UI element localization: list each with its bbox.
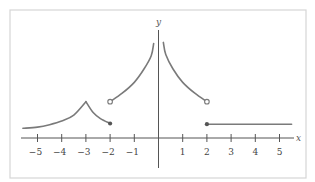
x-tick-label: −2 bbox=[101, 147, 114, 157]
open-circle-marker bbox=[108, 99, 113, 104]
x-tick-label: 2 bbox=[204, 147, 210, 157]
curve-piece-3 bbox=[163, 42, 207, 101]
x-tick-label: −4 bbox=[53, 147, 67, 157]
x-axis-label: x bbox=[296, 133, 301, 143]
function-graph: −5−4−3−2−112345 x y bbox=[0, 0, 315, 182]
x-tick-label: −3 bbox=[77, 147, 91, 157]
x-tick-label: 4 bbox=[252, 147, 258, 157]
x-ticks: −5−4−3−2−112345 bbox=[29, 134, 283, 157]
curve-left-rising bbox=[23, 102, 86, 129]
x-tick-label: −1 bbox=[126, 147, 139, 157]
x-tick-label: 5 bbox=[277, 147, 283, 157]
open-circle-marker bbox=[205, 99, 210, 104]
x-tick-label: −5 bbox=[29, 147, 43, 157]
closed-dot-marker bbox=[108, 121, 112, 125]
curve-piece-2 bbox=[110, 44, 154, 102]
curves bbox=[23, 42, 292, 128]
x-tick-label: 3 bbox=[228, 147, 234, 157]
x-tick-label: 1 bbox=[180, 147, 186, 157]
y-axis-label: y bbox=[155, 17, 162, 27]
curve-left-falling bbox=[86, 102, 110, 124]
closed-dot-marker bbox=[205, 122, 209, 126]
